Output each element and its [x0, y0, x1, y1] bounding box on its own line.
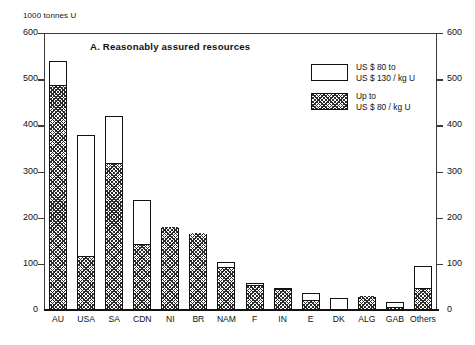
bar-IN — [274, 288, 292, 310]
x-tick-label-IN: IN — [269, 314, 297, 324]
axis-baseline — [44, 309, 439, 311]
x-tick-label-NAM: NAM — [212, 314, 240, 324]
bar-outline-NAM — [217, 262, 235, 310]
x-tick-label-GAB: GAB — [381, 314, 409, 324]
legend-label-1-line2: US $ 80 / kg U — [356, 102, 410, 112]
legend-label-1-line1: Up to — [356, 91, 376, 101]
x-tick-label-DK: DK — [325, 314, 353, 324]
y-tick-label-left-100: 100 — [8, 258, 38, 268]
bar-segment-hatched-NAM — [218, 267, 234, 309]
bar-segment-hatched-SA — [106, 163, 122, 309]
x-tick-label-BR: BR — [184, 314, 212, 324]
x-tick-label-SA: SA — [100, 314, 128, 324]
y-tick-mark-right-200 — [436, 218, 443, 219]
legend-label-1: Up to US $ 80 / kg U — [356, 91, 410, 112]
bar-outline-IN — [274, 288, 292, 310]
bar-segment-hatched-E — [303, 300, 319, 309]
bar-USA — [77, 135, 95, 310]
x-tick-label-E: E — [297, 314, 325, 324]
y-tick-label-right-600: 600 — [447, 27, 475, 37]
bar-outline-E — [302, 293, 320, 310]
bar-segment-hatched-ALG — [359, 296, 375, 309]
chart-container: 1000 tonnes U A. Reasonably assured reso… — [0, 0, 475, 345]
y-tick-label-right-300: 300 — [447, 166, 475, 176]
x-tick-label-AU: AU — [44, 314, 72, 324]
y-tick-label-left-0: 0 — [8, 304, 38, 314]
bar-F — [246, 283, 264, 310]
x-tick-label-Others: Others — [409, 314, 437, 324]
bar-E — [302, 293, 320, 310]
bar-outline-USA — [77, 135, 95, 310]
y-tick-mark-right-600 — [436, 33, 443, 34]
bar-outline-AU — [49, 61, 67, 310]
legend-swatch-white — [311, 64, 348, 81]
y-tick-label-right-200: 200 — [447, 212, 475, 222]
bar-segment-hatched-IN — [275, 289, 291, 309]
bar-outline-Others — [414, 266, 432, 310]
y-tick-mark-right-100 — [436, 264, 443, 265]
bar-segment-hatched-AU — [50, 85, 66, 309]
y-tick-label-left-400: 400 — [8, 119, 38, 129]
x-tick-label-NI: NI — [156, 314, 184, 324]
bar-Others — [414, 266, 432, 310]
y-tick-mark-right-500 — [436, 79, 443, 80]
x-tick-label-CDN: CDN — [128, 314, 156, 324]
legend-swatch-hatched — [311, 93, 348, 110]
bar-segment-hatched-Others — [415, 288, 431, 309]
y-tick-label-left-300: 300 — [8, 166, 38, 176]
bar-outline-CDN — [133, 200, 151, 310]
legend-label-0-line1: US $ 80 to — [356, 62, 396, 72]
x-tick-label-ALG: ALG — [353, 314, 381, 324]
bar-segment-hatched-NI — [162, 227, 178, 309]
y-axis-unit-label: 1000 tonnes U — [23, 11, 76, 20]
y-tick-label-right-0: 0 — [447, 304, 475, 314]
y-tick-label-left-600: 600 — [8, 27, 38, 37]
bar-outline-NI — [161, 228, 179, 310]
legend-label-0: US $ 80 to US $ 130 / kg U — [356, 62, 415, 83]
bar-outline-SA — [105, 116, 123, 310]
y-tick-label-right-100: 100 — [447, 258, 475, 268]
bar-segment-hatched-BR — [190, 233, 206, 309]
bar-CDN — [133, 200, 151, 310]
x-tick-label-F: F — [241, 314, 269, 324]
legend-label-0-line2: US $ 130 / kg U — [356, 73, 415, 83]
y-tick-label-right-500: 500 — [447, 73, 475, 83]
y-tick-label-left-200: 200 — [8, 212, 38, 222]
bar-AU — [49, 61, 67, 310]
y-tick-mark-right-300 — [436, 172, 443, 173]
y-tick-label-right-400: 400 — [447, 119, 475, 129]
y-tick-mark-right-400 — [436, 125, 443, 126]
bar-NI — [161, 228, 179, 310]
bar-NAM — [217, 262, 235, 310]
y-tick-label-left-500: 500 — [8, 73, 38, 83]
bar-segment-hatched-CDN — [134, 244, 150, 309]
bar-SA — [105, 116, 123, 310]
bar-segment-hatched-USA — [78, 256, 94, 309]
bar-outline-F — [246, 283, 264, 310]
bar-outline-BR — [189, 234, 207, 310]
x-tick-label-USA: USA — [72, 314, 100, 324]
bar-segment-hatched-F — [247, 285, 263, 309]
bar-BR — [189, 234, 207, 310]
